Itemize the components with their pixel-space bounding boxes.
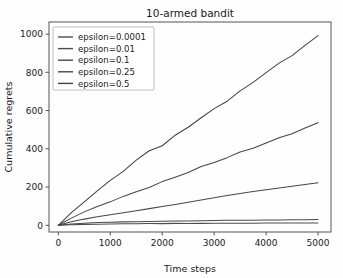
chart-figure: 10-armed bandit 010002000300040005000 02… [0,0,343,278]
x-axis-title: Time steps [163,263,216,274]
y-tick-label: 600 [26,106,43,116]
x-tick-label: 5000 [307,238,330,248]
x-tick-label: 3000 [203,238,226,248]
legend-label: epsilon=0.0001 [78,32,146,42]
chart-title: 10-armed bandit [146,7,234,19]
y-tick-label: 1000 [20,29,43,39]
y-tick-label: 0 [37,221,43,231]
x-tick-label: 1000 [99,238,122,248]
y-tick-label: 400 [26,144,43,154]
x-tick-label: 4000 [255,238,278,248]
x-tick-label: 2000 [151,238,174,248]
legend-label: epsilon=0.25 [78,67,135,77]
legend-label: epsilon=0.01 [78,44,135,54]
legend-label: epsilon=0.1 [78,55,130,65]
figure-background [0,0,343,278]
y-tick-label: 800 [26,68,43,78]
y-tick-label: 200 [26,182,43,192]
chart-legend: epsilon=0.0001epsilon=0.01epsilon=0.1eps… [53,27,154,90]
x-tick-label: 0 [55,238,61,248]
legend-label: epsilon=0.5 [78,79,130,89]
y-axis-title: Cumulative regrets [3,81,14,172]
